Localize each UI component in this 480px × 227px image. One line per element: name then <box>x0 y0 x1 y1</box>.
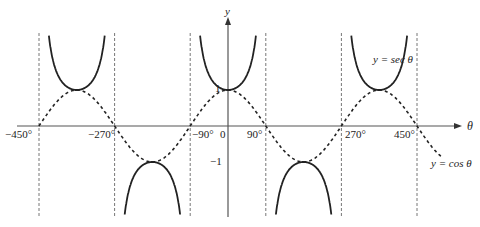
sec-branch <box>276 162 331 215</box>
y-axis-arrow-icon <box>225 17 231 25</box>
sec-branch <box>49 36 105 90</box>
origin-label: 0 <box>220 129 226 140</box>
sec-cos-graph <box>0 0 480 227</box>
cos-curve-label: y = cos θ <box>431 158 472 169</box>
sec-branch <box>125 162 180 215</box>
x-tick-m270: −270° <box>88 129 115 140</box>
y-axis-label: y <box>225 6 230 17</box>
x-axis-arrow-icon <box>454 123 462 129</box>
x-tick-270: 270° <box>345 129 366 140</box>
x-tick-m450: −450° <box>5 129 32 140</box>
sec-curve-label: y = sec θ <box>373 54 413 65</box>
x-tick-m90: −90° <box>192 129 214 140</box>
x-tick-90: 90° <box>247 129 262 140</box>
y-tick-1: 1 <box>215 83 221 94</box>
x-tick-450: 450° <box>394 129 415 140</box>
y-tick-minus-1: −1 <box>210 156 222 167</box>
x-axis-label: θ <box>467 120 473 132</box>
